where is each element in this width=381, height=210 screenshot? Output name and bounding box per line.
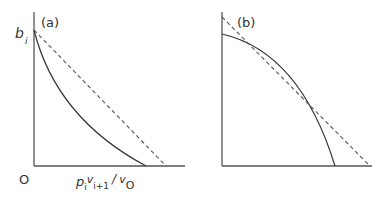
panel-a-label: (a)	[41, 15, 59, 30]
panel-a-dashed-straight-line	[34, 30, 166, 166]
panel-b-label: (b)	[237, 15, 255, 30]
panel-a: (a) bi O pivi+1/vO	[15, 12, 185, 192]
panel-a-y-label: bi	[15, 25, 28, 46]
panel-a-origin-label: O	[19, 172, 29, 187]
panel-b-dashed-tangent-line	[222, 17, 370, 166]
figure-canvas: (a) bi O pivi+1/vO (b)	[0, 0, 381, 210]
panel-b-solid-concave-curve	[222, 34, 335, 166]
panel-b: (b)	[222, 12, 372, 166]
panel-a-x-label: pivi+1/vO	[75, 172, 135, 192]
panel-a-solid-convex-curve	[34, 30, 146, 166]
